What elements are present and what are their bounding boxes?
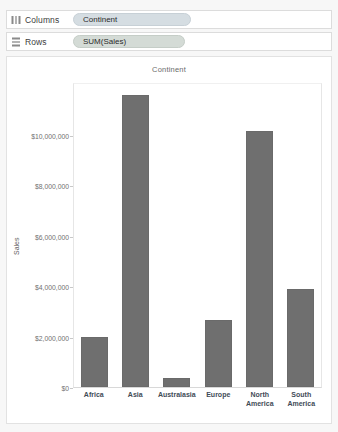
y-tick-label: $0 <box>61 385 69 392</box>
rows-icon <box>11 37 21 47</box>
x-axis-labels: AfricaAsiaAustralasiaEuropeNorthAmericaS… <box>73 390 322 408</box>
x-axis-label[interactable]: Europe <box>198 390 240 408</box>
y-tick-label: $4,000,000 <box>35 284 69 291</box>
rows-shelf-label: Rows <box>25 37 73 47</box>
x-axis-label-line: Australasia <box>157 390 197 399</box>
y-tick-label: $8,000,000 <box>35 183 69 190</box>
y-tick-label: $10,000,000 <box>31 132 69 139</box>
bar-slot <box>115 84 156 387</box>
bar-europe[interactable] <box>205 320 232 387</box>
y-axis-ticks: $0$2,000,000$4,000,000$6,000,000$8,000,0… <box>21 57 73 425</box>
bar-slot <box>280 84 321 387</box>
x-axis-label-line: South <box>282 390 322 399</box>
y-tick-label: $2,000,000 <box>35 334 69 341</box>
pill-continent[interactable]: Continent <box>73 13 191 26</box>
tableau-worksheet: Columns Continent Rows SUM(Sales) Contin… <box>0 0 338 432</box>
pill-sum-sales-label: SUM(Sales) <box>83 37 126 46</box>
pill-sum-sales[interactable]: SUM(Sales) <box>73 35 185 48</box>
x-axis-label-line: America <box>282 399 322 408</box>
columns-icon <box>11 15 21 25</box>
y-tick-label: $6,000,000 <box>35 233 69 240</box>
x-axis-label[interactable]: Asia <box>115 390 157 408</box>
plot-area <box>73 83 322 388</box>
bar-australasia[interactable] <box>163 378 190 387</box>
x-axis-label-line: Europe <box>199 390 239 399</box>
x-axis-label[interactable]: NorthAmerica <box>239 390 281 408</box>
bar-series <box>74 84 321 387</box>
rows-shelf[interactable]: Rows SUM(Sales) <box>6 32 332 51</box>
bar-slot <box>156 84 197 387</box>
x-axis-label-line: Asia <box>116 390 156 399</box>
pill-continent-label: Continent <box>83 15 117 24</box>
columns-shelf-label: Columns <box>25 15 73 25</box>
x-axis-label[interactable]: Africa <box>73 390 115 408</box>
bar-slot <box>74 84 115 387</box>
bar-slot <box>198 84 239 387</box>
shelf-area: Columns Continent Rows SUM(Sales) <box>6 10 332 54</box>
columns-shelf[interactable]: Columns Continent <box>6 10 332 29</box>
bar-south-america[interactable] <box>287 289 314 387</box>
bar-africa[interactable] <box>81 337 108 387</box>
y-axis-title: Sales <box>13 237 20 255</box>
bar-slot <box>239 84 280 387</box>
chart-panel: Continent Sales $0$2,000,000$4,000,000$6… <box>6 56 332 424</box>
x-axis-label[interactable]: Australasia <box>156 390 198 408</box>
y-tick-mark <box>70 388 73 389</box>
x-axis-label-line: America <box>240 399 280 408</box>
plot-wrapper: Sales $0$2,000,000$4,000,000$6,000,000$8… <box>7 57 333 425</box>
bar-asia[interactable] <box>122 95 149 387</box>
x-axis-label[interactable]: SouthAmerica <box>281 390 323 408</box>
bar-north-america[interactable] <box>246 131 273 387</box>
x-axis-label-line: Africa <box>74 390 114 399</box>
x-axis-label-line: North <box>240 390 280 399</box>
